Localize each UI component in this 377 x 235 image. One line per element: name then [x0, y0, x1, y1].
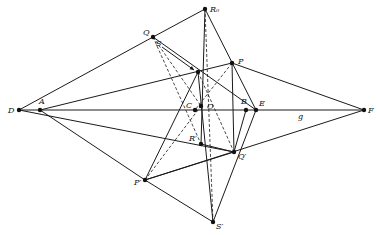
arrow-shaft [162, 47, 194, 70]
point-S1 [211, 220, 215, 224]
label-R: R₀ [209, 5, 220, 14]
dashed-line-Q-R1 [153, 37, 201, 144]
line-Q-R [153, 9, 205, 37]
geometry-diagram: R₀QPDACOBEFR′Q′P′S′Sg [0, 0, 377, 235]
label-C: C [186, 101, 192, 110]
point-P1 [143, 178, 147, 182]
point-F [362, 108, 366, 112]
line-R-E [205, 9, 256, 110]
label-A: A [38, 97, 45, 106]
point-A [38, 108, 42, 112]
label-S: S [156, 39, 162, 48]
point-R [203, 7, 207, 11]
dashed-line-R-S1 [205, 9, 213, 222]
label-Q: Q [143, 28, 150, 37]
line-P-F [232, 63, 364, 110]
label-B: B [240, 97, 247, 106]
line-S1-E [213, 110, 256, 222]
label-R1: R′ [188, 134, 197, 143]
solid-lines [19, 9, 364, 222]
pointer-arrow [162, 47, 194, 70]
line-P1-S1 [145, 180, 213, 222]
point-D [17, 108, 21, 112]
point-P [230, 61, 234, 65]
point-C [193, 108, 197, 112]
line-P1-Q1 [145, 152, 234, 180]
label-g: g [298, 112, 303, 121]
point-O [199, 104, 203, 108]
label-P1: P′ [133, 178, 141, 187]
point-Q1 [232, 150, 236, 154]
point-E [254, 108, 258, 112]
label-F: F [367, 106, 374, 115]
points [17, 7, 366, 224]
line-P-Q1 [232, 63, 234, 152]
arrow-head-icon [190, 66, 194, 70]
line-P1-X [145, 72, 198, 180]
line-Q1-B [234, 110, 246, 152]
point-B [244, 108, 248, 112]
dashed-line-P1-O [145, 106, 201, 180]
label-O: O [207, 102, 214, 111]
point-X [196, 70, 200, 74]
label-P: P [237, 57, 244, 66]
line-A-P1 [40, 110, 145, 180]
label-Q1: Q′ [238, 152, 247, 161]
label-D: D [7, 106, 15, 115]
label-S1: S′ [216, 222, 223, 231]
dashed-line-X-Q1 [198, 72, 234, 152]
point-R1 [199, 142, 203, 146]
label-E: E [258, 99, 265, 108]
point-Q [151, 35, 155, 39]
